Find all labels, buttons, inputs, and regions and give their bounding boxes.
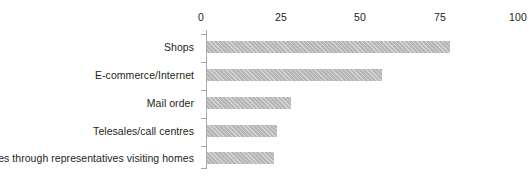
category-label-shops: Shops [164,41,194,53]
bar-ecommerce-internet [207,69,382,81]
category-label-sales-through-representatives: Sales through representatives visiting h… [0,152,194,164]
bar-chart: 0 25 50 75 100 Shops E-commerce/Internet… [0,0,531,180]
plot-area: Shops E-commerce/Internet Mail order Tel… [0,0,531,180]
bar-sales-through-representatives [207,152,274,164]
category-label-ecommerce-internet: E-commerce/Internet [95,69,194,81]
bar-shops [207,41,450,53]
bar-mail-order [207,97,291,109]
bar-telesales-call-centres [207,125,277,137]
category-label-telesales-call-centres: Telesales/call centres [93,125,194,137]
category-label-mail-order: Mail order [147,97,194,109]
